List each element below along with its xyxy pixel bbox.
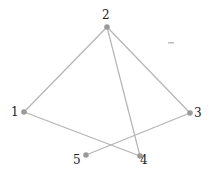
node-label-3: 3 — [194, 106, 202, 120]
graph-diagram: 12345 — [0, 0, 211, 174]
edge-1-2 — [24, 27, 107, 112]
node-5 — [83, 152, 89, 158]
edges — [24, 27, 190, 156]
nodes — [21, 24, 193, 159]
node-3 — [187, 110, 193, 116]
node-label-4: 4 — [140, 153, 148, 167]
node-1 — [21, 109, 27, 115]
edge-2-4 — [107, 27, 140, 156]
node-2 — [104, 24, 110, 30]
edge-2-3 — [107, 27, 190, 113]
node-label-2: 2 — [102, 8, 110, 22]
node-label-5: 5 — [73, 153, 81, 167]
node-label-1: 1 — [11, 105, 19, 119]
small-artifact-mark — [168, 42, 174, 44]
edge-1-4 — [24, 112, 140, 156]
